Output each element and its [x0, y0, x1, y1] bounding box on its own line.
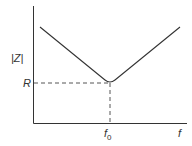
impedance-diagram: |Z| R f0 f [0, 0, 192, 146]
r-label: R [23, 77, 31, 89]
impedance-curve [40, 27, 180, 82]
y-axis-label: |Z| [11, 52, 24, 64]
x-axis-label: f [178, 127, 182, 139]
f0-label: f0 [104, 127, 112, 142]
f0-subscript: 0 [107, 133, 112, 142]
